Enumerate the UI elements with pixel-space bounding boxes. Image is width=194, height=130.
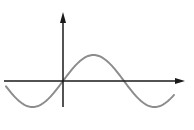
sine-wave-diagram (0, 0, 194, 130)
background (0, 0, 194, 130)
